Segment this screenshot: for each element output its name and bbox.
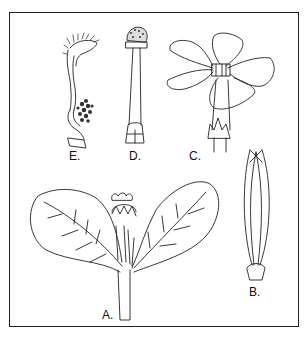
panel-c-drawing [167, 33, 274, 152]
botanical-drawing [0, 0, 308, 339]
label-b: B. [249, 285, 260, 299]
panel-a-drawing [30, 182, 218, 320]
panel-e-drawing [63, 33, 99, 148]
panel-b-drawing [244, 150, 269, 280]
label-d: D. [129, 149, 141, 163]
label-a: A. [102, 308, 113, 322]
label-c: C. [189, 149, 201, 163]
panel-d-drawing [126, 27, 147, 143]
label-e: E. [69, 149, 80, 163]
